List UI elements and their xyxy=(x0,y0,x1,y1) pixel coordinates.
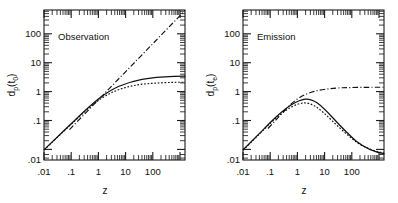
svg-text:dp(t0): dp(t0) xyxy=(6,74,20,97)
xtick-label-emi-1: .1 xyxy=(266,166,274,177)
yaxis-title-emi-close: ) xyxy=(205,74,216,77)
ytick-label-emi-3: 10 xyxy=(229,57,240,68)
yaxis-title-obs-close: ) xyxy=(6,74,17,77)
xaxis-title-emission: z xyxy=(302,185,307,196)
yaxis-ticks-emission xyxy=(243,11,251,158)
xaxis-ticks-emission xyxy=(243,152,379,160)
xtick-label-emi-2: 1 xyxy=(295,166,300,177)
curve-dashdot-emission xyxy=(268,87,384,128)
panel-observation: .01 .1 1 10 100 .01 .1 1 10 100 z dp(t0)… xyxy=(6,10,185,196)
xtick-label-emi-4: 100 xyxy=(344,166,360,177)
yaxis-title-observation: dp(t0) xyxy=(6,74,20,97)
panel-emission: .01 .1 1 10 100 .01 .1 1 10 100 z dp(te)… xyxy=(205,10,384,196)
ytick-label-emi-2: 1 xyxy=(235,86,240,97)
xtick-label-emi-3: 10 xyxy=(319,166,330,177)
curve-solid-emission xyxy=(243,99,384,154)
yaxis-title-emission: dp(te) xyxy=(205,74,219,97)
panel-title-observation: Observation xyxy=(58,31,109,42)
ytick-label-obs-0: .01 xyxy=(28,154,41,165)
curve-solid-observation xyxy=(44,76,185,149)
xtick-label-obs-2: 1 xyxy=(96,166,101,177)
xtick-label-obs-1: .1 xyxy=(67,166,75,177)
xtick-label-emi-0: .01 xyxy=(236,166,249,177)
figure-container: .01 .1 1 10 100 .01 .1 1 10 100 z dp(t0)… xyxy=(0,0,398,203)
curve-dotted-observation xyxy=(44,82,185,150)
yaxis-right-ticks-observation xyxy=(177,11,185,158)
ytick-label-emi-1: .1 xyxy=(232,115,240,126)
yaxis-ticks-observation xyxy=(44,11,52,158)
xaxis-ticks-observation xyxy=(44,152,180,160)
curve-dashdot-observation xyxy=(70,11,186,130)
xtick-label-obs-4: 100 xyxy=(145,166,161,177)
ytick-label-emi-4: 100 xyxy=(224,28,240,39)
xtick-label-obs-3: 10 xyxy=(120,166,131,177)
ytick-label-obs-4: 100 xyxy=(25,28,41,39)
yaxis-right-ticks-emission xyxy=(376,11,384,158)
ytick-label-obs-2: 1 xyxy=(36,86,41,97)
ytick-label-obs-1: .1 xyxy=(33,115,41,126)
xaxis-top-ticks-observation xyxy=(44,10,180,18)
xtick-label-obs-0: .01 xyxy=(37,166,50,177)
panel-title-emission: Emission xyxy=(257,31,296,42)
ytick-label-obs-3: 10 xyxy=(30,57,41,68)
xaxis-top-ticks-emission xyxy=(243,10,379,18)
ytick-label-emi-0: .01 xyxy=(227,154,240,165)
figure-svg: .01 .1 1 10 100 .01 .1 1 10 100 z dp(t0)… xyxy=(0,0,398,203)
svg-text:dp(te): dp(te) xyxy=(205,74,219,97)
xaxis-title-observation: z xyxy=(103,185,108,196)
